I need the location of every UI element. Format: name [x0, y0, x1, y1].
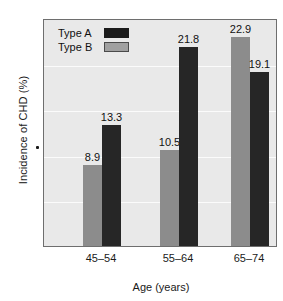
- bar-type-b-55-64[interactable]: 10.5: [160, 150, 179, 246]
- bar-series-container: 8.9 13.3 10.5 21.8 22.9: [44, 20, 276, 246]
- bar-value-label: 22.9: [230, 23, 251, 35]
- bar-type-a-65-74[interactable]: 19.1: [250, 72, 269, 246]
- bar-value-label: 21.8: [178, 33, 199, 45]
- bar-group-45-54: 8.9 13.3: [72, 20, 132, 246]
- plot-area: Type A Type B 8.9 13.3 10: [43, 19, 277, 247]
- bar-type-b-65-74[interactable]: 22.9: [231, 37, 250, 246]
- x-tick-label-55-64: 55–64: [163, 252, 194, 264]
- bar-value-label: 10.5: [159, 136, 180, 148]
- bar-group-65-74: 22.9 19.1: [220, 20, 277, 246]
- x-tick-label-65-74: 65–74: [234, 252, 265, 264]
- y-axis-label: Incidence of CHD (%): [17, 40, 29, 220]
- bar-value-label: 8.9: [85, 151, 100, 163]
- bar-value-label: 19.1: [249, 58, 270, 70]
- bar-type-a-45-54[interactable]: 13.3: [102, 125, 121, 246]
- bar-value-label: 13.3: [101, 111, 122, 123]
- bar-group-55-64: 10.5 21.8: [149, 20, 209, 246]
- bar-type-a-55-64[interactable]: 21.8: [179, 47, 198, 246]
- chart-figure: Incidence of CHD (%) 25 20 15 10 5 0 Typ…: [0, 0, 283, 301]
- bar-type-b-45-54[interactable]: 8.9: [83, 165, 102, 246]
- stray-dot-artifact: [36, 146, 39, 149]
- x-axis-label: Age (years): [42, 281, 280, 293]
- x-tick-label-45-54: 45–54: [86, 252, 117, 264]
